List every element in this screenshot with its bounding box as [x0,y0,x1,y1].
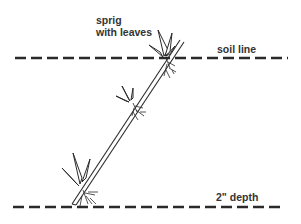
sprig-label-line1: sprig [96,14,122,26]
top-leaf-cluster [149,30,176,78]
soil-line-label: soil line [217,43,256,55]
sprig-label-line2: with leaves [96,26,152,38]
depth-label: 2" depth [216,191,258,203]
